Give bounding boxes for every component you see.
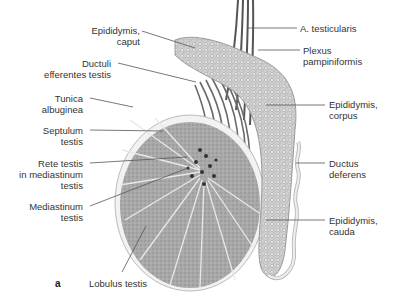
label-ductus-deferens: Ductus deferens [329,158,366,180]
label-a-testicularis: A. testicularis [300,23,357,34]
label-ductuli-efferentes: Ductuli efferentes testis [44,58,111,80]
label-epididymis-cauda: Epididymis, cauda [329,215,378,237]
label-epididymis-corpus: Epididymis, corpus [329,99,378,121]
testis-body [115,115,265,291]
label-septulum-testis: Septulum testis [43,125,83,147]
label-tunica-albuginea: Tunica albuginea [42,93,83,115]
label-epididymis-caput: Epididymis, caput [91,25,140,47]
label-lobulus-testis: Lobulus testis [89,278,147,289]
label-mediastinum-testis: Mediastinum testis [29,201,83,223]
panel-letter: a [55,278,61,289]
label-plexus-pampiniformis: Plexus pampiniformis [303,45,362,67]
label-rete-testis: Rete testis in mediastinum testis [19,158,83,191]
